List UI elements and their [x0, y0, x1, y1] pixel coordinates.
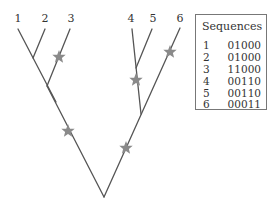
sequence-id: 3 — [203, 63, 210, 75]
leaf-label-5: 5 — [150, 12, 157, 25]
branch-5 — [136, 29, 152, 68]
mutation-star-icon — [52, 50, 65, 63]
sequence-value: 01000 — [228, 39, 261, 51]
sequence-id: 2 — [203, 51, 210, 63]
sequence-row: 6 00011 — [203, 98, 263, 111]
leaf-label-1: 1 — [15, 12, 22, 25]
mutation-star-icon — [129, 73, 142, 86]
mutation-star-icon — [119, 141, 132, 154]
sequence-value: 11000 — [228, 63, 261, 75]
leaf-label-3: 3 — [68, 12, 75, 25]
mutation-star-icon — [163, 45, 176, 58]
sequences-title: Sequences — [202, 20, 262, 33]
sequence-value: 00110 — [228, 75, 261, 87]
leaf-label-4: 4 — [128, 12, 135, 25]
branch-4 — [132, 29, 141, 114]
sequence-value: 00011 — [228, 98, 261, 110]
sequence-value: 01000 — [228, 51, 261, 63]
branch-2 — [33, 29, 45, 58]
sequence-id: 1 — [203, 39, 210, 51]
leaf-label-2: 2 — [42, 12, 49, 25]
sequences-legend: Sequences 1 01000 2 01000 3 11000 4 0011… — [195, 14, 267, 110]
branch-left-main — [47, 86, 104, 197]
leaf-label-6: 6 — [177, 12, 184, 25]
sequence-id: 4 — [203, 75, 210, 87]
sequence-id: 6 — [203, 98, 210, 110]
